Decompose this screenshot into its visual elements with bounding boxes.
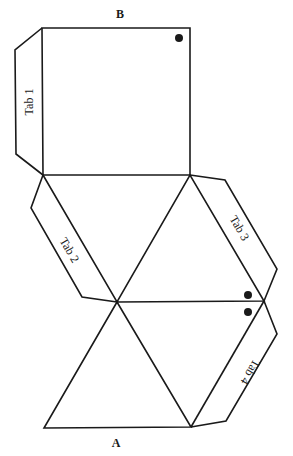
edge-label-a: A (112, 436, 121, 450)
dot-marker (244, 291, 252, 299)
tab-3-outline (190, 175, 277, 301)
lower-triangle-edges (44, 302, 191, 428)
tab-3-label: Tab 3 (227, 213, 253, 243)
upper-triangle-edges (43, 175, 264, 302)
tab-2-outline (31, 175, 117, 302)
tab-4-label: Tab 4 (238, 357, 264, 387)
square-face (42, 28, 190, 175)
edge-label-b: B (116, 7, 124, 21)
dot-marker (175, 34, 183, 42)
pyramid-net-diagram: B A Tab 1 Tab 2 Tab 3 Tab 4 (0, 0, 293, 456)
dot-marker (244, 308, 252, 316)
tab-1-label: Tab 1 (22, 89, 36, 116)
